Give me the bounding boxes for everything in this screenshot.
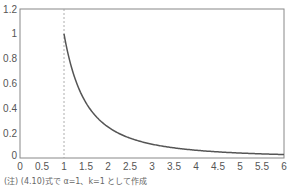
x-tick-label: 3.5 [167,161,181,172]
x-tick-label: 5 [237,161,243,172]
x-tick-label: 0 [17,161,23,172]
x-tick-label: 2.5 [123,161,137,172]
x-tick-label: 4 [193,161,199,172]
x-tick-label: 4.5 [211,161,225,172]
pareto-density-chart: 00.511.522.533.544.555.5600.20.40.60.811… [0,0,289,189]
x-tick-label: 1.5 [79,161,93,172]
x-tick-label: 3 [149,161,155,172]
x-tick-label: 1 [61,161,67,172]
y-tick-label: 0.8 [3,53,17,64]
y-tick-label: 1 [11,28,17,39]
x-tick-label: 0.5 [35,161,49,172]
y-tick-label: 0.4 [3,103,17,114]
y-tick-label: 1.2 [3,4,17,15]
y-tick-label: 0 [11,150,17,161]
y-tick-label: 0.6 [3,78,17,89]
x-tick-label: 2 [105,161,111,172]
footnote: (注) (4.10)式で α=1、k=1 として作成 [4,175,147,186]
y-tick-label: 0.2 [3,128,17,139]
x-tick-label: 6 [281,161,287,172]
x-tick-label: 5.5 [255,161,269,172]
density-curve [64,34,284,155]
plot-frame [20,9,284,158]
